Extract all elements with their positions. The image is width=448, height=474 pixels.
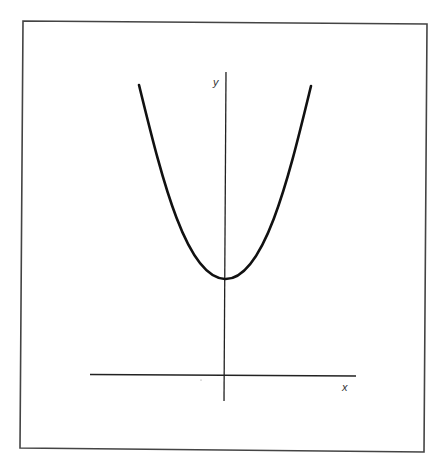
scan-speck	[200, 379, 201, 380]
y-axis-label: y	[212, 76, 220, 88]
parabola-figure: y x	[0, 0, 448, 474]
x-axis-label: x	[341, 381, 348, 393]
x-axis	[90, 375, 356, 377]
y-axis	[224, 72, 226, 401]
